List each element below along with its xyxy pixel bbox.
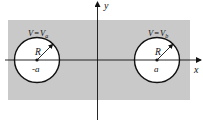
right-center-label: a	[154, 64, 159, 74]
left-potential-label: V=Va	[28, 28, 48, 39]
right-radius-label: R	[154, 47, 161, 57]
right-potential-label: V=Vb	[148, 28, 168, 39]
y-axis-label: y	[103, 0, 109, 11]
x-axis-label: x	[193, 64, 199, 75]
two-cylinder-diagram: y x V=Va V=Vb R R -a a	[0, 0, 203, 122]
left-center-label: -a	[32, 64, 40, 74]
left-radius-label: R	[34, 47, 41, 57]
